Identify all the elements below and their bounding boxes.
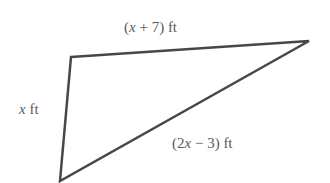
left-side-label: x ft [19, 102, 39, 117]
top-side-label: (x + 7) ft [124, 20, 177, 35]
left-label-suffix: ft [26, 101, 39, 117]
left-label-variable: x [19, 101, 26, 117]
hypotenuse-label: (2x − 3) ft [172, 136, 233, 151]
hyp-label-prefix: (2 [172, 135, 185, 151]
triangle-diagram: (x + 7) ft x ft (2x − 3) ft [0, 0, 330, 183]
top-label-variable: x [129, 19, 136, 35]
hyp-label-suffix: − 3) ft [191, 135, 232, 151]
triangle-outline [60, 41, 309, 181]
top-label-suffix: + 7) ft [136, 19, 177, 35]
